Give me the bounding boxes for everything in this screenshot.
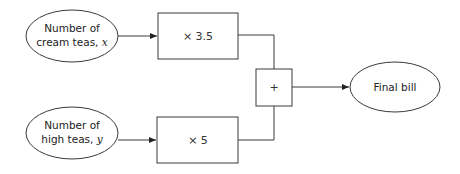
node-label-text: cream teas, — [36, 36, 101, 48]
input-node-high-teas: Number of high teas, y — [26, 107, 118, 159]
multiply-node-3-5: × 3.5 — [158, 13, 238, 59]
multiply-node-5: × 5 — [157, 117, 238, 163]
output-node-final-bill: Final bill — [350, 62, 440, 112]
plus-label: + — [269, 81, 278, 94]
node-label: Final bill — [374, 81, 417, 93]
node-label-line1: Number of — [44, 22, 100, 34]
node-label-line2: high teas, y — [41, 133, 103, 145]
edge-mult-high-to-sum — [238, 106, 274, 140]
flow-diagram: Number of cream teas, x × 3.5 + Number o… — [0, 0, 460, 174]
edge-mult-cream-to-sum — [238, 35, 274, 69]
node-label: × 5 — [188, 134, 208, 147]
node-label: × 3.5 — [183, 30, 213, 43]
node-label-line2: cream teas, x — [36, 36, 107, 48]
node-label-text: high teas, — [41, 133, 96, 145]
input-node-cream-teas: Number of cream teas, x — [26, 10, 118, 62]
variable-y: y — [96, 133, 104, 145]
sum-node: + — [256, 69, 292, 106]
variable-x: x — [102, 36, 108, 48]
node-label-line1: Number of — [44, 119, 100, 131]
